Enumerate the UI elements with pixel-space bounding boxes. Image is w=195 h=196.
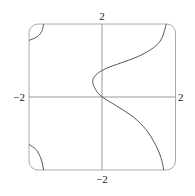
implicit-plot: 2 −2 −2 2 — [0, 0, 195, 196]
tick-label-x-left: −2 — [13, 91, 25, 103]
tick-label-y-top: 2 — [99, 10, 105, 22]
tick-label-x-right: 2 — [178, 91, 184, 103]
tick-label-y-bottom: −2 — [96, 173, 108, 185]
